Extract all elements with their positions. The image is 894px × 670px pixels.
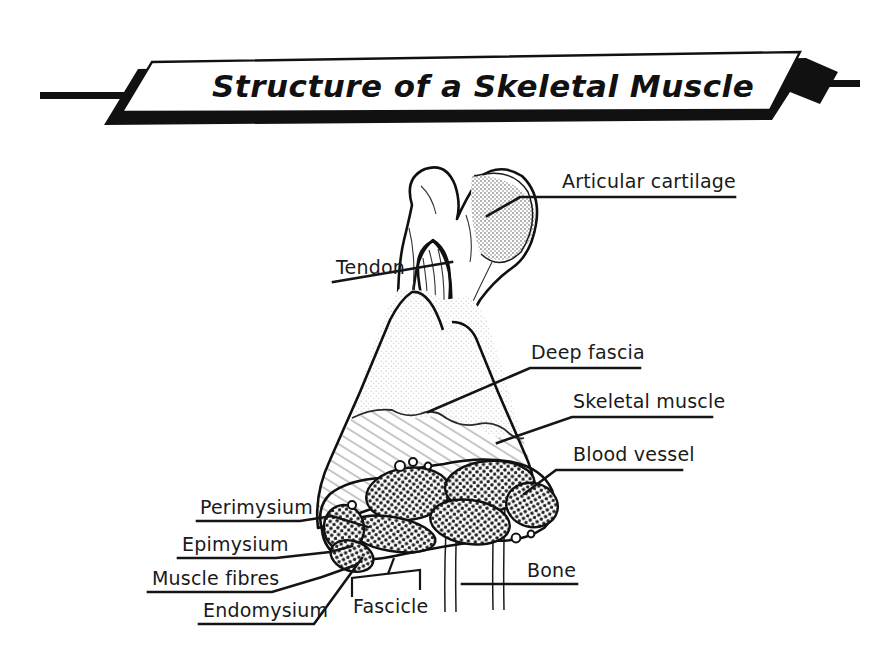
bone-head-contour-3 xyxy=(466,215,471,262)
title-banner: Structure of a Skeletal Muscle xyxy=(40,52,860,125)
diagram-canvas: Structure of a Skeletal Muscle xyxy=(0,0,894,670)
bone-head-contour-2 xyxy=(409,228,414,292)
label-text-epimysium: Epimysium xyxy=(182,533,289,555)
label-text-articular-cartilage: Articular cartilage xyxy=(562,170,736,192)
leader-skeletal-muscle xyxy=(497,417,712,443)
label-text-perimysium: Perimysium xyxy=(200,496,313,518)
label-text-blood-vessel: Blood vessel xyxy=(573,443,695,465)
page-title: Structure of a Skeletal Muscle xyxy=(212,68,754,104)
label-text-muscle-fibres: Muscle fibres xyxy=(152,567,279,589)
label-text-fascicle: Fascicle xyxy=(353,595,428,617)
blood-vessel-lumen xyxy=(425,463,432,470)
blood-vessel-lumen xyxy=(512,534,521,543)
label-muscle-fibres: Muscle fibres xyxy=(148,565,356,592)
label-skeletal-muscle: Skeletal muscle xyxy=(497,390,725,443)
label-bone: Bone xyxy=(462,559,577,584)
blood-vessel-lumen xyxy=(395,461,405,471)
bracket-fascicle xyxy=(352,570,420,597)
label-text-deep-fascia: Deep fascia xyxy=(531,341,645,363)
leader-fascicle xyxy=(388,558,394,574)
blood-vessel-lumen xyxy=(528,531,535,538)
label-text-tendon: Tendon xyxy=(335,256,405,278)
bone-head-contour-1 xyxy=(421,186,436,214)
blood-vessel-lumen xyxy=(348,501,356,509)
label-text-skeletal-muscle: Skeletal muscle xyxy=(573,390,725,412)
banner-right-tail xyxy=(800,80,860,87)
blood-vessel-lumen xyxy=(409,458,417,466)
label-text-bone: Bone xyxy=(527,559,576,581)
label-text-endomysium: Endomysium xyxy=(203,599,328,621)
skeletal-muscle-figure: Structure of a Skeletal Muscle xyxy=(0,0,894,670)
